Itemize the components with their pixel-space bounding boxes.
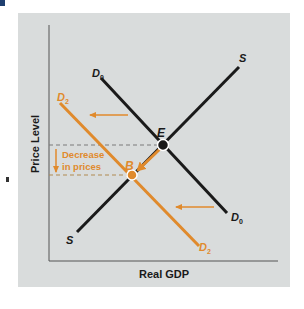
label-e: E <box>157 126 166 140</box>
svg-text:0: 0 <box>100 74 104 81</box>
label-d0-bottom: D 0 <box>231 211 243 225</box>
move-arrow-icon <box>138 149 160 170</box>
svg-text:D: D <box>199 241 207 253</box>
label-b: B <box>125 159 134 173</box>
annotation-line2: in prices <box>62 161 101 172</box>
svg-text:D: D <box>57 91 65 103</box>
label-s-top: S <box>239 52 247 64</box>
label-d0-top: D 0 <box>92 67 104 81</box>
svg-text:0: 0 <box>239 218 243 225</box>
label-d2-bottom: D 2 <box>199 241 211 255</box>
label-s-bottom: S <box>66 234 74 246</box>
svg-text:2: 2 <box>207 248 211 255</box>
svg-text:2: 2 <box>65 98 69 105</box>
point-e <box>158 140 169 151</box>
svg-text:D: D <box>231 211 239 223</box>
label-d2-top: D 2 <box>57 91 69 105</box>
x-axis-label: Real GDP <box>139 268 189 280</box>
ad-as-diagram: E B S S D 0 D 0 D 2 D 2 Decrease in pric… <box>0 0 304 309</box>
annotation-line1: Decrease <box>62 149 104 160</box>
y-axis-label: Price Level <box>29 115 41 173</box>
svg-text:D: D <box>92 67 100 79</box>
